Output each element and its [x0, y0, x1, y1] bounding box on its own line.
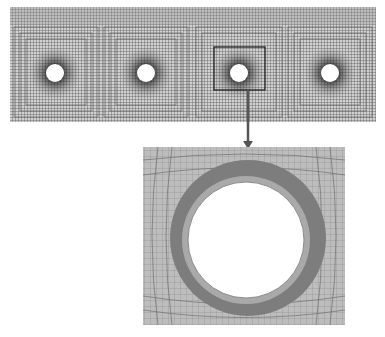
detail-hole: [188, 182, 304, 298]
hole-1: [46, 64, 64, 82]
overview-mesh: [10, 7, 376, 122]
mesh-figure: [0, 0, 385, 337]
detail-mesh: [143, 147, 345, 325]
hole-4: [321, 64, 339, 82]
hole-3: [230, 64, 248, 82]
hole-2: [137, 64, 155, 82]
